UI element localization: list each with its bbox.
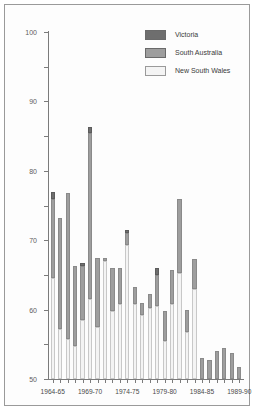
x-tick-label: 1984-85 xyxy=(190,388,214,395)
x-tick-mark xyxy=(68,379,69,383)
x-tick-label: 1969-70 xyxy=(78,388,102,395)
y-tick-label: 100 xyxy=(25,29,37,36)
bar-segment-south-australia xyxy=(148,294,152,308)
bar-1984-85[interactable] xyxy=(200,358,204,379)
x-tick-mark xyxy=(98,379,99,383)
bar-1981-82[interactable] xyxy=(177,199,181,379)
bar-1973-74[interactable] xyxy=(118,268,122,379)
bar-1989-90[interactable] xyxy=(237,367,241,379)
legend-label: New South Wales xyxy=(175,67,230,75)
x-tick-label: 1979-80 xyxy=(153,388,177,395)
x-tick-mark xyxy=(180,379,181,383)
x-tick-mark xyxy=(157,379,158,383)
bar-1976-77[interactable] xyxy=(140,303,144,379)
bar-segment-victoria xyxy=(80,263,84,266)
x-tick-label: 1989-90 xyxy=(227,388,251,395)
y-tick-mark: 10 xyxy=(44,344,49,345)
bar-segment-south-australia xyxy=(163,311,167,340)
bar-1986-87[interactable] xyxy=(215,351,219,379)
bar-1978-79[interactable] xyxy=(155,268,159,379)
bar-segment-new-south-wales xyxy=(51,278,55,379)
bar-1968-69[interactable] xyxy=(80,263,84,379)
x-tick-mark xyxy=(112,379,113,383)
x-tick-mark xyxy=(142,379,143,383)
bar-segment-new-south-wales xyxy=(192,289,196,379)
bar-1987-88[interactable] xyxy=(222,348,226,379)
bar-segment-south-australia xyxy=(200,358,204,379)
bar-1965-66[interactable] xyxy=(58,218,62,379)
bar-segment-victoria xyxy=(155,268,159,275)
legend-swatch xyxy=(145,66,166,76)
bar-segment-south-australia xyxy=(73,266,77,346)
bar-1988-89[interactable] xyxy=(230,353,234,379)
x-tick-mark xyxy=(217,379,218,383)
x-tick-mark xyxy=(195,379,196,383)
bar-segment-south-australia xyxy=(58,218,62,329)
bar-1982-83[interactable] xyxy=(185,310,189,379)
bar-1967-68[interactable] xyxy=(73,266,77,379)
y-tick-mark: 70 xyxy=(44,136,49,137)
bar-segment-south-australia xyxy=(88,133,92,300)
bar-segment-south-australia xyxy=(103,258,107,261)
bar-1979-80[interactable] xyxy=(163,311,167,379)
y-tick-mark: 40 xyxy=(44,240,49,241)
bar-segment-south-australia xyxy=(125,233,129,245)
bar-segment-new-south-wales xyxy=(170,304,174,379)
bar-1970-71[interactable] xyxy=(95,258,99,379)
legend-item[interactable]: Victoria xyxy=(145,29,230,41)
legend-item[interactable]: South Australia xyxy=(145,47,230,59)
bar-segment-south-australia xyxy=(222,348,226,379)
bar-1972-73[interactable] xyxy=(110,268,114,379)
bar-segment-new-south-wales xyxy=(103,261,107,379)
bar-segment-south-australia xyxy=(51,199,55,279)
y-tick-mark: 50 xyxy=(44,206,49,207)
bar-segment-south-australia xyxy=(230,353,234,379)
bar-1964-65[interactable] xyxy=(51,192,55,379)
bar-segment-victoria xyxy=(51,192,55,199)
bar-segment-south-australia xyxy=(66,193,70,339)
legend-label: South Australia xyxy=(175,49,222,57)
bar-1974-75[interactable] xyxy=(125,230,129,379)
x-tick-mark xyxy=(75,379,76,383)
bar-segment-south-australia xyxy=(133,287,137,304)
bar-1983-84[interactable] xyxy=(192,259,196,379)
bar-1985-86[interactable] xyxy=(207,360,211,379)
y-tick-mark: 90 xyxy=(44,67,49,68)
y-tick-label: 90 xyxy=(29,98,37,105)
x-tick-mark xyxy=(105,379,106,383)
bar-segment-south-australia xyxy=(192,259,196,288)
y-tick-label: 60 xyxy=(29,306,37,313)
bar-segment-south-australia xyxy=(155,275,159,306)
x-tick-mark xyxy=(127,379,128,383)
bar-segment-victoria xyxy=(125,230,129,233)
bar-1966-67[interactable] xyxy=(66,193,70,379)
x-tick-mark xyxy=(202,379,203,383)
legend-swatch xyxy=(145,48,166,58)
x-tick-mark xyxy=(172,379,173,383)
bar-segment-south-australia xyxy=(185,310,189,333)
x-tick-mark xyxy=(239,379,240,383)
x-tick-mark xyxy=(187,379,188,383)
bar-segment-new-south-wales xyxy=(73,346,77,379)
bar-segment-new-south-wales xyxy=(185,332,189,379)
x-tick-mark xyxy=(135,379,136,383)
x-tick-mark xyxy=(209,379,210,383)
x-tick-mark xyxy=(53,379,54,383)
bar-segment-new-south-wales xyxy=(95,327,99,379)
x-axis-line xyxy=(48,379,244,380)
bar-1980-81[interactable] xyxy=(170,270,174,379)
legend-label: Victoria xyxy=(175,31,198,39)
bar-1971-72[interactable] xyxy=(103,258,107,379)
bar-segment-south-australia xyxy=(237,367,241,379)
bar-segment-new-south-wales xyxy=(155,306,159,379)
chart-frame: 0102030405060708090100 1964-651969-70197… xyxy=(4,4,250,406)
bar-1977-78[interactable] xyxy=(148,294,152,379)
legend-swatch xyxy=(145,30,166,40)
bar-1975-76[interactable] xyxy=(133,287,137,379)
bar-segment-south-australia xyxy=(118,268,122,304)
bar-segment-south-australia xyxy=(170,270,174,305)
legend-item[interactable]: New South Wales xyxy=(145,65,230,77)
y-tick-label: 50 xyxy=(29,376,37,383)
bar-1969-70[interactable] xyxy=(88,127,92,379)
plot-area: 0102030405060708090100 1964-651969-70197… xyxy=(49,32,243,379)
